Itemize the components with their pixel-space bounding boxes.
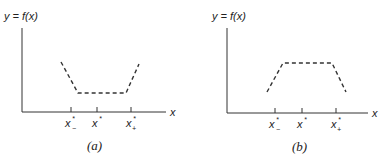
tick-label-x-star-minus: x <box>64 117 71 129</box>
panel-caption: (b) <box>292 139 307 154</box>
y-axis-label: y = f(x) <box>3 10 38 22</box>
tick-sub: − <box>72 125 76 132</box>
tick-sup: * <box>304 116 307 123</box>
plateau-curve <box>267 63 346 92</box>
tick-label-x-star-plus: x <box>330 118 337 130</box>
x-axis-label: x <box>371 107 378 119</box>
tick-sup: * <box>133 115 136 122</box>
tick-sub: − <box>276 126 280 133</box>
tick-label-x-star-minus: x <box>268 118 275 130</box>
tick-sup: * <box>99 115 102 122</box>
tick-sub: + <box>337 126 341 133</box>
panel-caption: (a) <box>87 138 102 153</box>
tick-label-x-star-plus: x <box>125 117 132 129</box>
tick-sub: + <box>132 125 136 132</box>
valley-curve <box>61 62 139 93</box>
panel-b: y = f(x) x x * − x * x * + (b) <box>211 10 378 154</box>
y-axis-label: y = f(x) <box>211 10 246 22</box>
diagram-canvas: y = f(x) x x * − x * x * + (a) y = f(x) … <box>0 0 386 162</box>
x-axis-label: x <box>169 106 176 118</box>
tick-label-x-star: x <box>91 117 98 129</box>
tick-sup: * <box>338 116 341 123</box>
tick-label-x-star: x <box>296 118 303 130</box>
tick-sup: * <box>72 115 75 122</box>
panel-a: y = f(x) x x * − x * x * + (a) <box>3 10 176 153</box>
tick-sup: * <box>276 116 279 123</box>
